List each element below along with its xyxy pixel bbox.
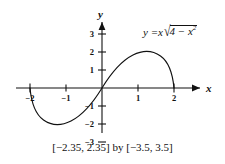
graph-figure: x y −2 −1 1 2 3 2 1 −1 −2 −3 y =x√4 − x2…	[0, 0, 225, 164]
x-axis	[16, 85, 200, 92]
radicand: 4 − x2	[170, 25, 198, 37]
y-tick-label-1: 1	[90, 65, 94, 75]
window-range-caption: [−2.35, 2.35] by [−3.5, 3.5]	[0, 141, 225, 153]
radicand-exponent: 2	[193, 24, 197, 32]
y-tick-label-3: 3	[90, 29, 94, 39]
equation-lhs: y =	[143, 26, 158, 38]
x-tick-label--2: −2	[25, 93, 34, 103]
x-tick-label-2: 2	[172, 93, 176, 103]
x-tick-label--1: −1	[61, 93, 70, 103]
radical-group: √4 − x2	[163, 26, 197, 38]
radicand-base: 4 − x	[170, 25, 193, 37]
x-axis-name: x	[205, 82, 212, 94]
y-axis-name: y	[96, 8, 103, 20]
y-axis	[99, 22, 106, 133]
y-tick-label--1: −1	[85, 101, 94, 111]
equation-annotation: y =x√4 − x2	[143, 26, 197, 38]
x-tick-label-1: 1	[136, 93, 140, 103]
y-tick-label--2: −2	[85, 119, 94, 129]
y-tick-label-2: 2	[90, 47, 94, 57]
